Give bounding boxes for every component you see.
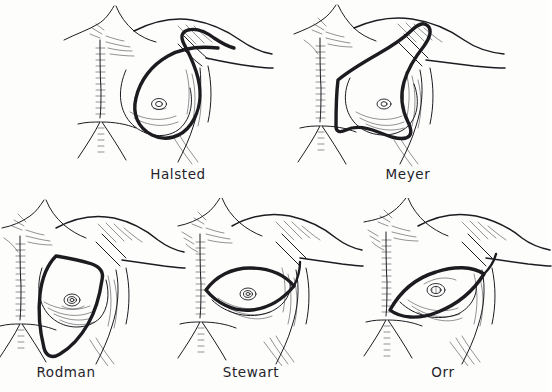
nipple <box>62 294 84 309</box>
clavicle-hatching <box>4 214 52 252</box>
orr-illustration <box>360 198 552 366</box>
lateral-chest-hatching <box>90 276 117 366</box>
figure-panel-orr: Orr <box>360 198 552 388</box>
deltoid-hatching <box>178 25 222 44</box>
page-scan-bleed <box>0 385 548 392</box>
nipple <box>240 288 256 300</box>
torso-outline <box>364 198 551 364</box>
torso-outline <box>0 200 185 364</box>
nipple <box>427 284 445 297</box>
panel-label-orr: Orr <box>360 366 552 380</box>
rodman-illustration <box>0 198 186 366</box>
stewart-illustration <box>172 198 364 366</box>
panel-label-rodman: Rodman <box>0 366 186 380</box>
figure-panel-stewart: Stewart <box>172 198 364 388</box>
figure-panel-halsted: Halsted <box>60 4 274 190</box>
clavicle-hatching <box>90 24 134 56</box>
incision-line-meyer <box>336 24 430 139</box>
clavicle-hatching <box>182 212 232 252</box>
torso-outline <box>294 5 505 164</box>
nipple <box>152 99 167 110</box>
figure-panel-rodman: Rodman <box>0 198 186 388</box>
incision-line-stewart <box>206 262 300 310</box>
lateral-chest-hatching <box>174 70 201 164</box>
clavicle-hatching <box>368 210 418 250</box>
nipple <box>377 99 391 109</box>
figure-panel-meyer: Meyer <box>292 4 506 190</box>
panel-label-stewart: Stewart <box>172 366 364 380</box>
panel-label-halsted: Halsted <box>60 168 274 182</box>
incision-line-halsted <box>135 29 234 138</box>
halsted-illustration <box>60 4 274 169</box>
meyer-illustration <box>292 4 506 169</box>
panel-label-meyer: Meyer <box>292 168 506 182</box>
clavicle-hatching <box>304 18 352 54</box>
